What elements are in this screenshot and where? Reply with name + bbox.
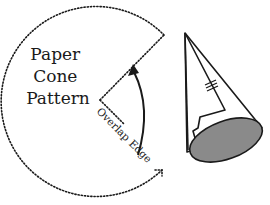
cone-pattern-diagram: Paper Cone Pattern Overlap Edge [0, 0, 270, 205]
pattern-title: Paper Cone Pattern [26, 44, 90, 108]
overlap-edge-label: Overlap Edge [95, 105, 155, 165]
paper-cone [184, 33, 268, 171]
